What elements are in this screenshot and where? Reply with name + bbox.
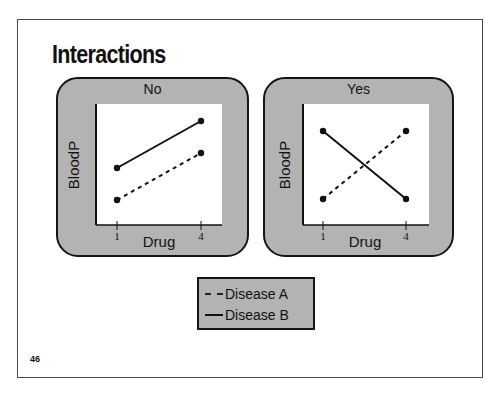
x-tick-label: 4 (198, 230, 204, 242)
legend-label: Disease B (225, 307, 289, 323)
plot-yes: 1 4 Drug BloodP (276, 104, 429, 250)
x-axis-label: Drug (349, 233, 382, 250)
page-number: 46 (30, 354, 40, 364)
legend-label: Disease A (225, 286, 288, 302)
plot-no: 1 4 Drug BloodP (65, 104, 222, 250)
legend: Disease A Disease B (197, 277, 315, 330)
data-point (114, 165, 120, 171)
x-tick-label: 1 (114, 230, 120, 242)
data-point (403, 196, 409, 202)
dashed-line-swatch-icon (205, 293, 223, 295)
charts-layer: 1 4 Drug BloodP 1 4 Drug BloodP (0, 0, 500, 396)
x-tick-label: 4 (403, 230, 409, 242)
solid-line-swatch-icon (205, 314, 223, 316)
plot-area (302, 104, 429, 225)
legend-item-disease-b: Disease B (205, 305, 289, 325)
data-point (198, 150, 204, 156)
y-axis-label: BloodP (276, 141, 293, 189)
x-axis-label: Drug (143, 233, 176, 250)
data-point (320, 128, 326, 134)
data-point (114, 197, 120, 203)
y-axis-label: BloodP (65, 141, 82, 189)
data-point (403, 128, 409, 134)
data-point (320, 196, 326, 202)
legend-item-disease-a: Disease A (205, 284, 288, 304)
data-point (198, 118, 204, 124)
x-tick-label: 1 (320, 230, 326, 242)
